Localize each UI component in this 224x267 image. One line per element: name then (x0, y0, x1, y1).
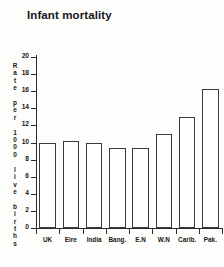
bar (202, 89, 219, 228)
x-tick-label: W.N (158, 236, 170, 243)
bar (39, 143, 56, 228)
y-tick-label-text: 20 (14, 53, 29, 60)
y-axis-label-char: s (10, 240, 20, 247)
y-tick (31, 160, 36, 161)
x-tick (59, 228, 60, 234)
y-tick-label: 14 (14, 104, 29, 112)
y-tick-label: 16 (14, 87, 29, 95)
bar (109, 148, 126, 228)
y-tick (31, 143, 36, 144)
y-tick-label-text: 8 (14, 156, 29, 163)
x-tick (36, 228, 37, 234)
y-tick-label: 10 (14, 139, 29, 147)
y-tick-label: 0 (14, 224, 29, 232)
x-tick-label: Pak. (204, 236, 217, 243)
bar (179, 117, 196, 228)
y-tick-label: 12 (14, 121, 29, 129)
y-axis-label-char: r (10, 114, 20, 121)
y-tick (31, 108, 36, 109)
bar (86, 143, 103, 229)
y-axis-label-char: R (10, 62, 20, 69)
x-tick-label: Carib. (178, 236, 196, 243)
y-tick (31, 211, 36, 212)
y-tick-label: 4 (14, 190, 29, 198)
y-tick-label: 18 (14, 70, 29, 78)
y-tick-label-text: 18 (14, 70, 29, 77)
y-tick-label: 6 (14, 173, 29, 181)
y-tick-label: 8 (14, 156, 29, 164)
y-tick-label-text: 14 (14, 104, 29, 111)
y-tick-label-text: 0 (14, 224, 29, 231)
x-tick-label: E.N (135, 236, 146, 243)
y-tick (31, 91, 36, 92)
y-axis-label-char: h (10, 232, 20, 239)
x-tick-label: India (87, 236, 102, 243)
x-tick (199, 228, 200, 234)
y-tick-label: 20 (14, 53, 29, 61)
x-tick (83, 228, 84, 234)
y-axis-label-char: v (10, 181, 20, 188)
x-tick (129, 228, 130, 234)
x-tick (222, 228, 223, 234)
bar (156, 134, 173, 228)
y-tick (31, 74, 36, 75)
y-tick-label-text: 2 (14, 207, 29, 214)
y-tick-label: 2 (14, 207, 29, 215)
y-tick (31, 177, 36, 178)
y-tick-label-text: 12 (14, 121, 29, 128)
bar (63, 141, 80, 228)
x-tick (106, 228, 107, 234)
x-tick (176, 228, 177, 234)
x-tick-label: UK (43, 236, 52, 243)
chart-figure: Infant mortality Rate per 1000 live birt… (0, 0, 224, 267)
y-tick-label-text: 10 (14, 139, 29, 146)
y-tick (31, 125, 36, 126)
x-tick-label: Eire (65, 236, 77, 243)
y-tick-label-text: 6 (14, 173, 29, 180)
y-tick-label-text: 4 (14, 190, 29, 197)
y-tick-label-text: 16 (14, 87, 29, 94)
y-tick (31, 194, 36, 195)
bar (132, 148, 149, 228)
y-axis-label-char: 1 (10, 129, 20, 136)
x-tick-label: Bang. (108, 236, 126, 243)
x-tick (152, 228, 153, 234)
y-tick (31, 57, 36, 58)
y-axis-line (36, 55, 37, 229)
chart-title: Infant mortality (27, 9, 112, 21)
